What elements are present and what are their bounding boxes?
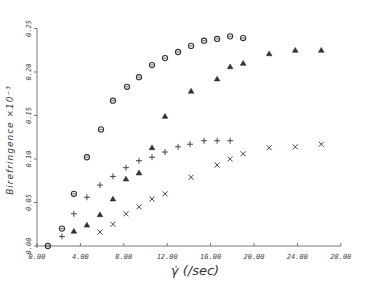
x-marker <box>319 142 324 147</box>
x-axis-label: γ̇ (/sec) <box>171 263 219 278</box>
x-tick-label: 24.00 <box>287 253 308 261</box>
x-marker <box>110 222 115 227</box>
plus-marker <box>71 211 77 217</box>
triangle-marker <box>136 170 142 175</box>
triangle-marker <box>162 114 168 119</box>
triangle-marker <box>266 51 272 56</box>
plus-marker <box>110 173 116 179</box>
plus-marker <box>162 149 168 155</box>
triangle-marker <box>292 47 298 52</box>
triangle-marker <box>110 196 116 201</box>
plus-marker <box>97 182 103 188</box>
triangle-marker <box>84 222 90 227</box>
plus-marker <box>84 194 90 200</box>
data-points <box>45 34 324 249</box>
x-marker <box>293 144 298 149</box>
y-tick-label: 0.05 <box>25 194 33 211</box>
x-marker <box>97 230 102 235</box>
x-tick-label: 20.00 <box>243 253 264 261</box>
x-marker <box>150 197 155 202</box>
triangle-marker <box>318 47 324 52</box>
y-tick-label: 0.00 <box>25 238 33 255</box>
y-tick-label: 0.10 <box>25 151 33 168</box>
x-marker <box>189 175 194 180</box>
y-tick-label: 0.20 <box>25 64 33 81</box>
triangle-marker <box>149 145 155 150</box>
series-plus <box>59 138 233 240</box>
triangle-marker <box>214 76 220 81</box>
x-marker <box>241 151 246 156</box>
x-marker <box>228 157 233 162</box>
y-tick-label: 0.25 <box>25 20 33 37</box>
plus-marker <box>136 158 142 164</box>
triangle-marker <box>97 212 103 217</box>
x-marker <box>136 204 141 209</box>
x-marker <box>267 145 272 150</box>
y-tick-label: 0.15 <box>25 107 33 124</box>
x-tick-label: 12.00 <box>157 253 178 261</box>
plus-marker <box>201 138 207 144</box>
x-marker <box>123 211 128 216</box>
plus-marker <box>227 138 233 144</box>
series-crosses <box>97 142 323 235</box>
axes: 0.004.008.0012.0016.0020.0024.0028.000.0… <box>25 20 351 261</box>
x-tick-label: 28.00 <box>330 253 351 261</box>
triangle-marker <box>71 228 77 233</box>
triangle-marker <box>240 61 246 66</box>
plus-marker <box>175 144 181 150</box>
x-marker <box>163 191 168 196</box>
x-marker <box>215 163 220 168</box>
triangle-marker <box>123 176 129 181</box>
triangle-marker <box>188 88 194 93</box>
series-triangles <box>71 47 324 233</box>
y-axis-label: Birefringence ×10⁻³ <box>5 85 15 195</box>
plus-marker <box>123 165 129 171</box>
plus-marker <box>149 154 155 160</box>
plus-marker <box>59 233 65 239</box>
x-tick-label: 16.00 <box>200 253 221 261</box>
plus-marker <box>214 138 220 144</box>
triangle-marker <box>227 64 233 69</box>
x-tick-label: 4.00 <box>72 253 89 261</box>
scatter-chart: 0.004.008.0012.0016.0020.0024.0028.000.0… <box>0 0 372 285</box>
plus-marker <box>187 141 193 147</box>
x-tick-label: 8.00 <box>115 253 132 261</box>
